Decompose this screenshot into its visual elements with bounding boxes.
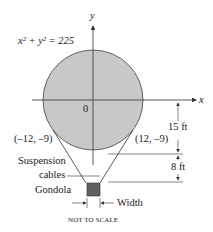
point-right-label: (12, –9): [135, 134, 168, 145]
cables-label-2: cables: [39, 170, 65, 181]
dim-8ft-label: 8 ft: [171, 162, 185, 173]
dim-15ft-label: 15 ft: [168, 122, 188, 133]
footnote: NOT TO SCALE: [68, 217, 118, 224]
equation-label: x² + y² = 225: [18, 36, 74, 47]
width-label: Width: [117, 198, 143, 209]
gondola-label: Gondola: [35, 185, 71, 196]
gondola: [87, 183, 100, 196]
point-left-label: (–12, –9): [14, 134, 53, 145]
cables-label-1: Suspension: [18, 156, 66, 167]
x-axis-label: x: [199, 95, 204, 106]
origin-label: 0: [83, 104, 88, 115]
y-axis-label: y: [90, 11, 95, 22]
